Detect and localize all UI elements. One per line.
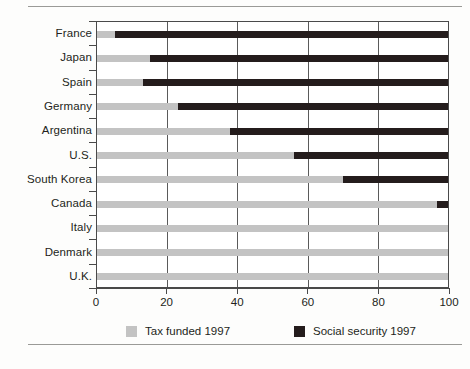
x-axis-tick-label: 40 (231, 296, 244, 308)
x-axis-tick (449, 288, 450, 294)
bar-row (97, 193, 448, 215)
bar-segment-social-security (437, 201, 448, 208)
bar-row (97, 120, 448, 142)
y-axis-label: U.K. (6, 270, 92, 282)
legend-item[interactable]: Tax funded 1997 (126, 325, 230, 337)
y-axis-tick (89, 118, 96, 119)
bar-segment-tax-funded (97, 103, 178, 110)
y-axis-label: U.S. (6, 149, 92, 161)
bar-segment-social-security (294, 152, 448, 159)
y-axis-label: Argentina (6, 124, 92, 136)
legend-label: Tax funded 1997 (145, 325, 230, 337)
bar-segment-social-security (143, 79, 448, 86)
bar-track (97, 152, 448, 159)
plot-area (96, 21, 449, 288)
y-axis-label: Canada (6, 197, 92, 209)
legend-item[interactable]: Social security 1997 (294, 325, 416, 337)
y-axis-tick (89, 45, 96, 46)
x-axis: 020406080100 (96, 288, 449, 314)
bar-track (97, 273, 448, 280)
x-axis-tick-label: 80 (372, 296, 385, 308)
bar-segment-tax-funded (97, 55, 150, 62)
bar-track (97, 103, 448, 110)
x-axis-line (96, 288, 449, 289)
bar-segment-tax-funded (97, 273, 448, 280)
y-axis-tick (89, 191, 96, 192)
bar-track (97, 55, 448, 62)
y-axis-label: South Korea (6, 173, 92, 185)
bar-track (97, 249, 448, 256)
x-axis-tick-label: 0 (93, 296, 99, 308)
y-axis-tick (89, 94, 96, 95)
y-axis-tick (89, 70, 96, 71)
bar-row (97, 145, 448, 167)
y-axis-tick (89, 215, 96, 216)
bar-track (97, 128, 448, 135)
y-axis-tick (89, 264, 96, 265)
chart-page: FranceJapanSpainGermanyArgentinaU.S.Sout… (0, 0, 470, 369)
y-axis-label: Denmark (6, 246, 92, 258)
x-axis-tick (378, 288, 379, 294)
bar-row (97, 169, 448, 191)
y-axis-label: Italy (6, 221, 92, 233)
y-axis-label: Spain (6, 76, 92, 88)
bar-segment-tax-funded (97, 152, 294, 159)
y-axis-tick (89, 239, 96, 240)
bar-track (97, 201, 448, 208)
bar-track (97, 225, 448, 232)
bar-row (97, 72, 448, 94)
legend-swatch-social (294, 326, 305, 337)
x-axis-tick (237, 288, 238, 294)
y-axis-labels: FranceJapanSpainGermanyArgentinaU.S.Sout… (0, 21, 92, 288)
bar-row (97, 47, 448, 69)
bar-segment-social-security (150, 55, 448, 62)
bar-track (97, 79, 448, 86)
bar-row (97, 96, 448, 118)
bar-row (97, 23, 448, 45)
bar-row (97, 217, 448, 239)
x-axis-tick (307, 288, 308, 294)
bar-segment-tax-funded (97, 225, 448, 232)
bar-track (97, 31, 448, 38)
bar-segment-social-security (343, 176, 448, 183)
x-axis-tick (166, 288, 167, 294)
x-axis-tick (96, 288, 97, 294)
legend-label: Social security 1997 (313, 325, 416, 337)
page-rule-bottom (28, 344, 462, 345)
bar-row (97, 266, 448, 288)
bar-track (97, 176, 448, 183)
bar-segment-tax-funded (97, 128, 230, 135)
x-axis-tick-label: 20 (160, 296, 173, 308)
bar-segment-tax-funded (97, 79, 143, 86)
y-axis-tick (89, 21, 96, 22)
x-axis-tick-label: 100 (439, 296, 458, 308)
bar-segment-tax-funded (97, 201, 437, 208)
bar-segment-tax-funded (97, 176, 343, 183)
bar-segment-social-security (178, 103, 448, 110)
page-rule-top (28, 6, 462, 7)
bar-segment-tax-funded (97, 31, 115, 38)
bar-segment-social-security (115, 31, 448, 38)
bar-segment-tax-funded (97, 249, 448, 256)
y-axis-tick (89, 167, 96, 168)
y-axis-label: Japan (6, 51, 92, 63)
x-axis-tick-label: 60 (301, 296, 314, 308)
y-axis-label: France (6, 27, 92, 39)
legend-swatch-tax (126, 326, 137, 337)
chart-legend: Tax funded 1997Social security 1997 (96, 325, 449, 341)
bar-row (97, 242, 448, 264)
bar-segment-social-security (230, 128, 448, 135)
y-axis-tick (89, 142, 96, 143)
y-axis-label: Germany (6, 100, 92, 112)
